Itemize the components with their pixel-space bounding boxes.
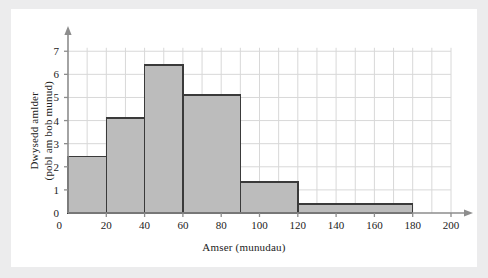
histogram-plot: 02040608010012014016018020001234567 [11, 9, 477, 267]
svg-text:140: 140 [328, 219, 345, 231]
figure-panel: 02040608010012014016018020001234567 Amse… [11, 9, 477, 267]
svg-text:100: 100 [251, 219, 268, 231]
svg-text:0: 0 [57, 219, 63, 231]
y-axis-label: Dwysedd amlder (pobl am bob munud) [28, 56, 56, 206]
y-axis-label-line1: Dwysedd amlder [28, 56, 42, 206]
svg-text:60: 60 [177, 219, 189, 231]
svg-text:40: 40 [139, 219, 151, 231]
y-axis-label-line2: (pobl am bob munud) [42, 56, 56, 206]
svg-text:0: 0 [54, 207, 60, 219]
histogram-svg: 02040608010012014016018020001234567 [11, 9, 477, 267]
svg-text:160: 160 [366, 219, 383, 231]
svg-text:80: 80 [216, 219, 228, 231]
svg-text:180: 180 [404, 219, 421, 231]
x-axis-label: Amser (munudau) [11, 241, 477, 253]
svg-text:200: 200 [443, 219, 460, 231]
svg-text:20: 20 [101, 219, 113, 231]
svg-text:120: 120 [290, 219, 307, 231]
